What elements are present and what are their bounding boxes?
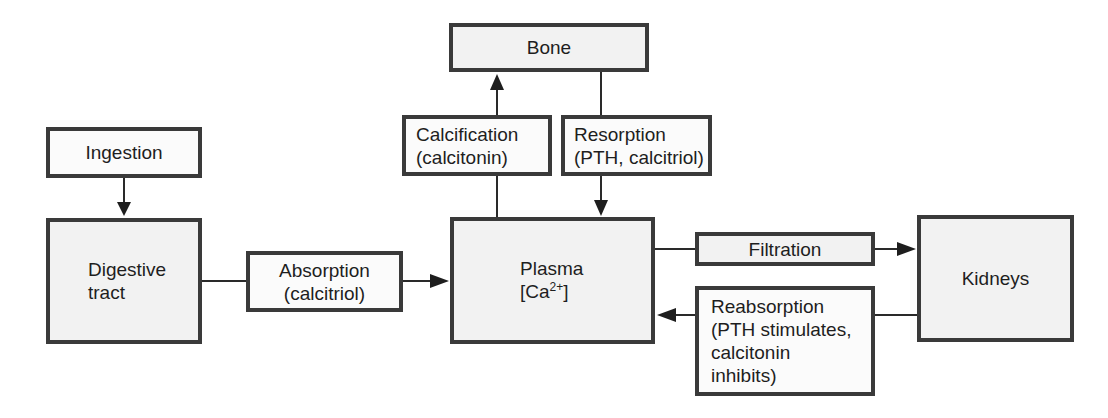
node-label-line2: (PTH stimulates, <box>711 318 851 341</box>
node-label-line2: (PTH, calcitriol) <box>574 146 704 169</box>
arrowhead-down-icon <box>117 202 131 216</box>
node-label: Filtration <box>749 238 822 261</box>
arrowhead-up-icon <box>490 74 504 90</box>
arrowhead-left-icon <box>657 308 676 322</box>
node-kidneys: Kidneys <box>917 215 1074 342</box>
node-label-line2: [Ca2+] <box>520 280 569 303</box>
calcium-homeostasis-diagram: Ingestion Digestive tract Absorption (ca… <box>0 0 1108 418</box>
node-plasma: Plasma [Ca2+] <box>450 217 655 344</box>
node-label-line1: Reabsorption <box>711 295 824 318</box>
node-digestive-tract: Digestive tract <box>46 218 202 344</box>
node-label-line1: Resorption <box>574 123 666 146</box>
node-label-line3: calcitonin <box>711 341 790 364</box>
node-resorption: Resorption (PTH, calcitriol) <box>561 115 712 176</box>
node-label-line1: Calcification <box>416 123 518 146</box>
node-absorption: Absorption (calcitriol) <box>246 251 403 312</box>
node-calcification: Calcification (calcitonin) <box>402 115 552 176</box>
node-label-line2: (calcitonin) <box>416 146 508 169</box>
node-reabsorption: Reabsorption (PTH stimulates, calcitonin… <box>695 286 875 396</box>
node-filtration: Filtration <box>695 232 875 266</box>
node-label: Ingestion <box>85 141 162 164</box>
node-label-line1: Digestive <box>88 258 166 281</box>
arrowhead-right-icon <box>897 242 916 256</box>
node-ingestion: Ingestion <box>46 127 202 178</box>
node-label: Kidneys <box>962 267 1030 290</box>
node-label-line4: inhibits) <box>711 364 776 387</box>
node-label-line1: Absorption <box>279 259 370 282</box>
node-label-line1: Plasma <box>520 257 583 280</box>
node-bone: Bone <box>449 23 649 72</box>
arrowhead-right-icon <box>430 274 449 288</box>
node-label-line2: (calcitriol) <box>284 282 365 305</box>
arrowhead-down-icon <box>594 200 608 216</box>
node-label-line2: tract <box>88 281 125 304</box>
node-label: Bone <box>527 36 571 59</box>
